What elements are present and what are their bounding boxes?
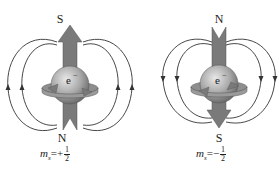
ms-fraction: 12 [64, 146, 70, 163]
svg-text:−: − [222, 71, 227, 80]
svg-text:−: − [73, 71, 78, 80]
ms-sign: =− [207, 147, 219, 159]
electron-label: e [215, 74, 220, 86]
spin-quantum-number: ms=−12 [196, 146, 226, 163]
bottom-pole-label: N [52, 131, 72, 146]
ms-sign: =+ [51, 147, 63, 159]
spin-quantum-number: ms=+12 [40, 146, 70, 163]
spin-up-panel: e − S N ms=+12 [0, 0, 140, 173]
top-pole-label: N [209, 12, 229, 27]
ms-fraction: 12 [220, 146, 226, 163]
spin-down-panel: e − N S ms=−12 [139, 0, 279, 173]
bottom-pole-label: S [209, 131, 229, 146]
top-pole-label: S [50, 12, 70, 27]
ms-symbol: m [40, 147, 48, 159]
electron-label: e [66, 74, 71, 86]
ms-symbol: m [196, 147, 204, 159]
